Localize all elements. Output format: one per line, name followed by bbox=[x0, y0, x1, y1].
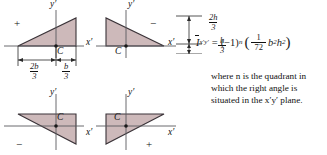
horizontal-dimension-lines bbox=[0, 46, 92, 68]
dimension-2h-over-3-numerator: 2h bbox=[207, 13, 220, 22]
dimension-b-over-3-denominator: 3 bbox=[62, 71, 70, 81]
y-axis-label-q2: y′ bbox=[128, 0, 134, 10]
quadrant-2-drawing bbox=[92, 2, 184, 60]
centroid-dot-q2 bbox=[124, 44, 128, 48]
x-axis-label-q4: x′ bbox=[168, 128, 174, 138]
sign-q3: − bbox=[16, 139, 22, 150]
formula-note-text: where n is the quadrant in which the rig… bbox=[211, 71, 306, 105]
y-axis-label-q1: y′ bbox=[50, 0, 56, 10]
quadrant-3-drawing bbox=[0, 92, 92, 154]
y-axis-label-q3: y′ bbox=[50, 88, 56, 98]
formula-subscript: x′y′ bbox=[200, 38, 209, 46]
dimension-b-over-3-numerator: b bbox=[62, 62, 70, 71]
formula-factor-base: (−1) bbox=[221, 37, 239, 48]
y-axis-label-q4: y′ bbox=[128, 88, 134, 98]
panel-quadrant-3 bbox=[0, 92, 92, 154]
panel-quadrant-4 bbox=[92, 92, 184, 154]
panel-quadrant-2 bbox=[92, 2, 184, 60]
dimension-b-over-3: b 3 bbox=[62, 62, 70, 80]
sign-q4: + bbox=[146, 139, 152, 150]
sign-q1: + bbox=[14, 18, 20, 29]
dimension-2b-over-3-denominator: 3 bbox=[30, 71, 38, 81]
centroid-dot-q3 bbox=[54, 124, 58, 128]
centroid-label-q2: C bbox=[115, 47, 121, 57]
formula-open-paren: ( bbox=[244, 34, 249, 51]
dimension-2b-over-3-numerator: 2b bbox=[28, 62, 41, 71]
formula-note: where n is the quadrant in which the rig… bbox=[211, 70, 327, 106]
x-axis-label-q2: x′ bbox=[168, 38, 174, 48]
formula-fraction-denominator: 72 bbox=[251, 42, 266, 52]
formula-fraction: 1 72 bbox=[251, 33, 266, 52]
formula-symbol-letter: I bbox=[196, 37, 200, 48]
dimension-2h-over-3: 2h 3 bbox=[207, 13, 220, 31]
triangle-shape-q3 bbox=[18, 114, 76, 144]
product-of-inertia-formula: I x′y′ = (−1)n ( 1 72 b2h2 ) bbox=[196, 33, 290, 52]
formula-close-paren: ) bbox=[285, 34, 290, 51]
formula-factor-exponent: n bbox=[239, 38, 243, 46]
sign-q2: − bbox=[150, 18, 156, 29]
figure-root: y′ x′ C + 2b 3 b 3 y′ x′ C − bbox=[0, 0, 327, 155]
centroid-label-q3: C bbox=[57, 113, 63, 123]
quadrant-4-drawing bbox=[92, 92, 184, 154]
triangle-shape-q1 bbox=[18, 18, 76, 46]
formula-fraction-numerator: 1 bbox=[254, 33, 264, 42]
centroid-label-q4: C bbox=[114, 113, 120, 123]
dimension-2h-over-3-denominator: 3 bbox=[209, 22, 217, 32]
dimension-2b-over-3: 2b 3 bbox=[28, 62, 41, 80]
centroid-dot-q4 bbox=[124, 124, 128, 128]
formula-symbol-I: I bbox=[196, 37, 200, 48]
overbar-decoration bbox=[195, 35, 199, 36]
formula-equals: = bbox=[209, 37, 221, 48]
